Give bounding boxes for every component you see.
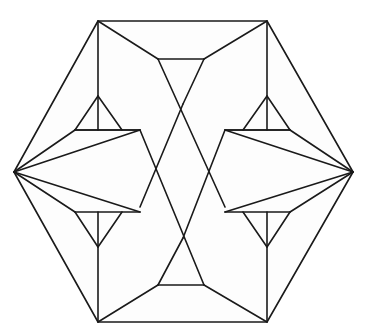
- polyhedron-line-drawing: [0, 0, 366, 336]
- face-outer-hex: [14, 21, 353, 322]
- faces-layer: [14, 21, 353, 322]
- figure-container: [0, 0, 366, 336]
